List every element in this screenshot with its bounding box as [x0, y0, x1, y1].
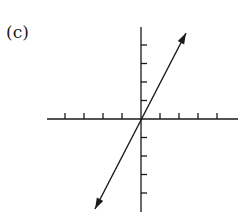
coordinate-plane [0, 0, 248, 223]
arrowhead-up-icon [178, 33, 186, 44]
arrowhead-down-icon [95, 198, 103, 209]
axes [47, 27, 238, 212]
